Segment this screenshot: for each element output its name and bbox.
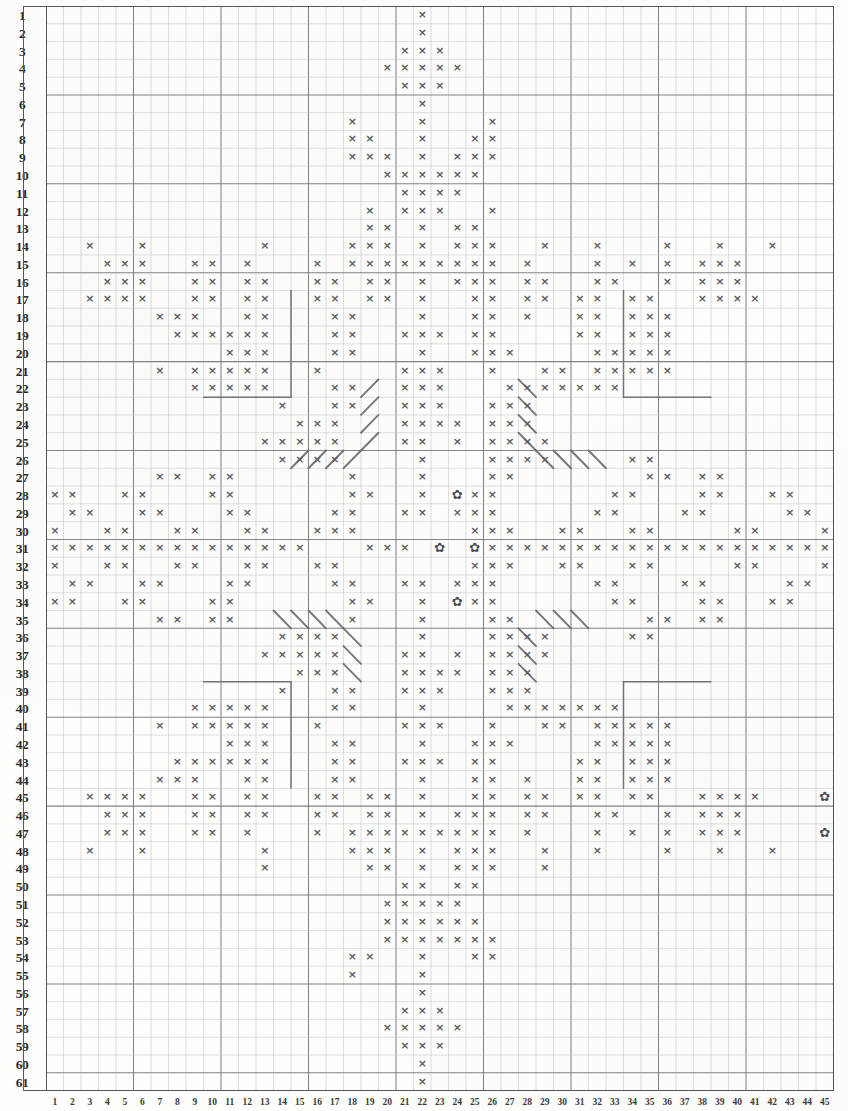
cross-stitch-symbol: ×: [396, 646, 414, 664]
cross-stitch-symbol: ×: [571, 753, 589, 771]
cross-stitch-symbol: ×: [659, 362, 677, 380]
cross-stitch-symbol: ×: [204, 593, 222, 611]
cross-stitch-symbol: ×: [309, 255, 327, 273]
cross-stitch-symbol: ×: [414, 95, 432, 113]
cross-stitch-symbol: ×: [204, 699, 222, 717]
column-number-label: 45: [816, 1097, 834, 1108]
cross-stitch-symbol: ×: [519, 255, 537, 273]
cross-stitch-symbol: ×: [606, 699, 624, 717]
cross-stitch-symbol: ×: [379, 219, 397, 237]
cross-stitch-symbol: ×: [431, 255, 449, 273]
cross-stitch-symbol: ×: [221, 326, 239, 344]
cross-stitch-symbol: ×: [344, 771, 362, 789]
cross-stitch-symbol: ×: [239, 308, 257, 326]
row-number-label: 20: [0, 345, 44, 362]
cross-stitch-symbol: ×: [484, 326, 502, 344]
cross-stitch-symbol: ×: [204, 290, 222, 308]
cross-stitch-symbol: ×: [431, 184, 449, 202]
cross-stitch-symbol: ×: [484, 682, 502, 700]
accent-stitch-symbol: ✿: [449, 486, 467, 504]
cross-stitch-symbol: ×: [151, 771, 169, 789]
cross-stitch-symbol: ×: [169, 522, 187, 540]
cross-stitch-symbol: ×: [641, 344, 659, 362]
cross-stitch-symbol: ×: [414, 486, 432, 504]
cross-stitch-symbol: ×: [659, 611, 677, 629]
cross-stitch-symbol: ×: [484, 931, 502, 949]
column-number-label: 11: [221, 1097, 239, 1108]
cross-stitch-symbol: ×: [291, 646, 309, 664]
cross-stitch-symbol: ×: [589, 699, 607, 717]
cross-stitch-symbol: ×: [414, 984, 432, 1002]
cross-stitch-symbol: ×: [431, 59, 449, 77]
row-number-label: 29: [0, 505, 44, 522]
cross-stitch-symbol: ×: [466, 877, 484, 895]
cross-stitch-symbol: ×: [484, 771, 502, 789]
cross-stitch-symbol: ×: [659, 842, 677, 860]
cross-stitch-symbol: ×: [239, 717, 257, 735]
cross-stitch-symbol: ×: [431, 824, 449, 842]
cross-stitch-symbol: ×: [221, 717, 239, 735]
cross-stitch-symbol: ×: [414, 1073, 432, 1091]
cross-stitch-symbol: ×: [554, 539, 572, 557]
cross-stitch-symbol: ×: [46, 522, 64, 540]
cross-stitch-symbol: ×: [239, 824, 257, 842]
cross-stitch-symbol: ×: [396, 255, 414, 273]
cross-stitch-symbol: ×: [309, 824, 327, 842]
cross-stitch-symbol: ×: [659, 806, 677, 824]
column-number-label: 31: [571, 1097, 589, 1108]
cross-stitch-symbol: ×: [449, 664, 467, 682]
cross-stitch-symbol: ×: [379, 895, 397, 913]
cross-stitch-symbol: ×: [396, 539, 414, 557]
cross-stitch-symbol: ×: [186, 522, 204, 540]
cross-stitch-symbol: ×: [204, 379, 222, 397]
cross-stitch-symbol: ×: [641, 628, 659, 646]
cross-stitch-symbol: ×: [344, 148, 362, 166]
cross-stitch-symbol: ×: [694, 788, 712, 806]
column-number-label: 18: [344, 1097, 362, 1108]
cross-stitch-symbol: ×: [64, 575, 82, 593]
cross-stitch-symbol: ×: [326, 682, 344, 700]
cross-stitch-symbol: ×: [344, 504, 362, 522]
cross-stitch-symbol: ×: [746, 788, 764, 806]
cross-stitch-symbol: ×: [326, 753, 344, 771]
cross-stitch-symbol: ×: [326, 290, 344, 308]
cross-stitch-symbol: ×: [624, 788, 642, 806]
cross-stitch-symbol: ×: [116, 522, 134, 540]
cross-stitch-symbol: ×: [344, 308, 362, 326]
cross-stitch-symbol: ×: [414, 646, 432, 664]
cross-stitch-symbol: ×: [536, 237, 554, 255]
cross-stitch-symbol: ×: [239, 735, 257, 753]
cross-stitch-symbol: ×: [361, 148, 379, 166]
stitch-grid[interactable]: ××××××××××××××××××××××××××××××××××××××××…: [46, 6, 834, 1091]
cross-stitch-symbol: ×: [414, 148, 432, 166]
cross-stitch-symbol: ×: [309, 362, 327, 380]
cross-stitch-symbol: ×: [641, 362, 659, 380]
cross-stitch-symbol: ×: [204, 539, 222, 557]
cross-stitch-symbol: ×: [466, 824, 484, 842]
cross-stitch-symbol: ×: [729, 557, 747, 575]
row-number-label: 1: [0, 7, 44, 24]
row-number-label: 34: [0, 594, 44, 611]
cross-stitch-symbol: ×: [396, 1002, 414, 1020]
cross-stitch-symbol: ×: [361, 788, 379, 806]
cross-stitch-symbol: ×: [239, 290, 257, 308]
cross-stitch-symbol: ×: [186, 379, 204, 397]
cross-stitch-symbol: ×: [116, 539, 134, 557]
cross-stitch-symbol: ×: [466, 575, 484, 593]
cross-stitch-symbol: ×: [694, 806, 712, 824]
cross-stitch-symbol: ×: [361, 290, 379, 308]
cross-stitch-symbol: ×: [641, 290, 659, 308]
cross-stitch-symbol: ×: [519, 682, 537, 700]
cross-stitch-symbol: ×: [414, 611, 432, 629]
cross-stitch-symbol: ×: [256, 326, 274, 344]
row-number-label: 4: [0, 60, 44, 77]
cross-stitch-symbol: ×: [501, 522, 519, 540]
cross-stitch-symbol: ×: [484, 593, 502, 611]
accent-stitch-symbol: ✿: [816, 788, 834, 806]
cross-stitch-symbol: ×: [361, 948, 379, 966]
column-number-label: 43: [781, 1097, 799, 1108]
cross-stitch-symbol: ×: [344, 237, 362, 255]
cross-stitch-symbol: ×: [466, 806, 484, 824]
cross-stitch-symbol: ×: [396, 664, 414, 682]
cross-stitch-symbol: ×: [536, 273, 554, 291]
